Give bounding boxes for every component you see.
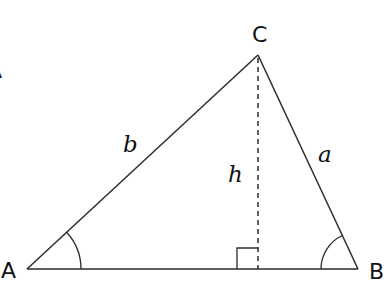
side-a (258, 55, 358, 269)
side-b (27, 55, 258, 269)
side-label-a: a (318, 141, 332, 167)
angle-arc-B (321, 236, 342, 270)
altitude-label-h: h (228, 161, 243, 187)
triangle-diagram: A A B C b a h (0, 0, 389, 299)
cropped-label-fragment: A (0, 58, 2, 83)
vertex-label-B: B (369, 259, 384, 284)
angle-arc-A (67, 232, 81, 269)
right-angle-marker (237, 248, 258, 269)
vertex-label-C: C (252, 22, 267, 47)
vertex-label-A: A (1, 258, 16, 283)
side-label-b: b (123, 131, 138, 157)
triangle-svg: A A B C b a h (0, 0, 389, 299)
